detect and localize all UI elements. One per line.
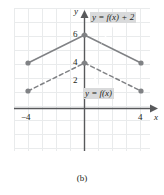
y-tick-label-2: 2 (73, 76, 78, 85)
plot-canvas (0, 0, 164, 195)
curve-label-shifted: y = f(x) + 2 (90, 12, 136, 23)
figure-caption: (b) (0, 173, 164, 183)
y-axis (81, 10, 89, 151)
x-tick-label-neg4: −4 (21, 113, 31, 122)
endpoint-marker (25, 60, 30, 65)
endpoint-marker (138, 88, 143, 93)
vertex-marker (82, 60, 87, 65)
leader-line-base (92, 68, 100, 88)
x-tick-label-4: 4 (138, 113, 143, 122)
x-axis (14, 105, 158, 113)
y-tick-label-4: 4 (73, 58, 78, 67)
y-tick-label-6: 6 (73, 30, 78, 39)
curve-label-base: y = f(x) (83, 88, 114, 99)
endpoint-marker (138, 60, 143, 65)
vertex-marker (82, 32, 87, 37)
x-axis-label: x (154, 113, 158, 122)
endpoint-marker (25, 88, 30, 93)
leader-line-shifted (100, 22, 116, 46)
y-axis-label: y (74, 7, 78, 16)
figure-panel: y x −4 4 2 4 6 y = f(x) + 2 y = f(x) (b) (0, 0, 164, 195)
